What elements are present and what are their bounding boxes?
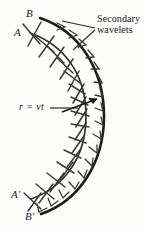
label-secondary-line2: wavelets <box>97 25 140 36</box>
label-B: B <box>26 8 33 20</box>
huygens-wavelets-figure: B A A' B' r = vt Secondary wavelets <box>0 0 146 233</box>
label-A-prime: A' <box>11 189 20 201</box>
label-A: A <box>14 27 21 39</box>
label-B-prime: B' <box>25 211 34 223</box>
label-radius-r-equals-vt: r = vt <box>19 102 44 113</box>
wavelet-chevron-arrowheads <box>37 23 103 212</box>
label-secondary-wavelets: Secondary wavelets <box>97 14 140 35</box>
leader-line-upper <box>62 21 95 28</box>
label-secondary-line1: Secondary <box>97 13 140 24</box>
secondary-wavelets-leader-lines <box>62 21 95 50</box>
